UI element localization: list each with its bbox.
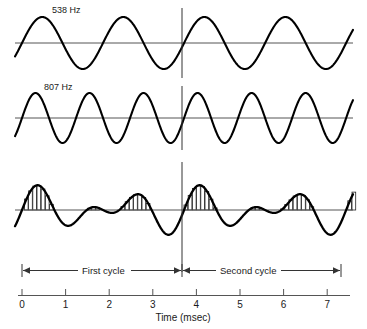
histogram-bar [201, 186, 205, 210]
panel-807hz: 807 Hz [15, 82, 353, 150]
axis-tick-label: 6 [281, 299, 287, 310]
axis-tick-label: 1 [63, 299, 69, 310]
panel-composite [15, 162, 356, 272]
axis-ticks: 01234567 [19, 289, 330, 310]
waveform-figure: 538 Hz 807 Hz First cycle [0, 0, 367, 329]
cycle-brackets: First cycle Second cycle [22, 264, 341, 277]
axis-tick-label: 0 [19, 299, 25, 310]
histogram-bar [134, 195, 138, 210]
histogram-bar [37, 186, 41, 210]
axis-tick-label: 4 [194, 299, 200, 310]
time-axis: 01234567 Time (msec) [18, 289, 350, 323]
axis-tick-label: 3 [150, 299, 156, 310]
bracket-second-right-arrow [333, 267, 340, 273]
histogram-bar [197, 185, 201, 210]
bracket-second-left-arrow [183, 267, 190, 273]
histogram-bar [33, 186, 37, 210]
axis-tick-label: 2 [106, 299, 112, 310]
bracket-first-label: First cycle [82, 265, 125, 276]
label-807hz: 807 Hz [44, 82, 73, 92]
axis-tick-label: 7 [324, 299, 330, 310]
histogram-bar [138, 195, 142, 210]
label-538hz: 538 Hz [52, 5, 81, 15]
bracket-second-cycle: Second cycle [183, 264, 341, 277]
axis-title: Time (msec) [155, 312, 210, 323]
bracket-second-label: Second cycle [220, 265, 277, 276]
bracket-first-right-arrow [174, 267, 181, 273]
bracket-first-cycle: First cycle [22, 264, 182, 277]
axis-tick-label: 5 [237, 299, 243, 310]
panel-538hz: 538 Hz [15, 5, 353, 78]
histogram-bar [297, 194, 301, 210]
bracket-first-left-arrow [23, 267, 30, 273]
